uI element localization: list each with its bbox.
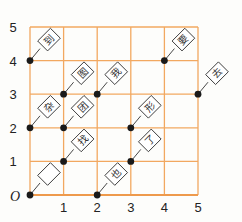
x-tick-label: 5 (194, 200, 201, 215)
grid-point (94, 91, 101, 98)
grid-point (27, 124, 34, 131)
flag-icon (38, 163, 61, 186)
flag-point: 我 (94, 62, 128, 98)
flag-icon: 团 (71, 95, 94, 118)
flag-point (27, 163, 61, 199)
x-tick-label: 1 (60, 200, 67, 215)
grid-point (27, 57, 34, 64)
y-tick-label: 5 (9, 20, 16, 35)
grid-point (127, 158, 134, 165)
grid-point (27, 192, 34, 199)
flag-icon: 到 (38, 28, 61, 51)
flag-point: 图 (60, 62, 94, 98)
flag-point: 了 (127, 129, 161, 165)
x-tick-label: 4 (161, 200, 168, 215)
y-tick-label: 3 (9, 87, 16, 102)
origin-label: O (10, 189, 20, 204)
grid-point (60, 124, 67, 131)
grid-point (60, 91, 67, 98)
grid-point (60, 158, 67, 165)
flag-point: 团 (60, 95, 94, 131)
grid-point (127, 124, 134, 131)
y-tick-label: 4 (9, 54, 16, 69)
grid-point (161, 57, 168, 64)
y-tick-label: 2 (9, 121, 16, 136)
grid-point (195, 91, 202, 98)
flag-point: 要 (161, 28, 195, 64)
flag-icon: 杂 (38, 95, 61, 118)
coordinate-grid-diagram: 1234512345O 到图我要去杂团形找了也 (0, 0, 242, 222)
flag-icon: 去 (206, 62, 229, 85)
flag-icon: 找 (71, 129, 94, 152)
flag-icon: 形 (138, 95, 161, 118)
flag-icon: 图 (71, 62, 94, 85)
flag-point: 去 (195, 62, 229, 98)
flag-point: 也 (94, 163, 128, 199)
flag-icon: 了 (138, 129, 161, 152)
flag-icon: 要 (172, 28, 195, 51)
flag-point: 到 (27, 28, 61, 64)
x-tick-label: 3 (127, 200, 134, 215)
flag-icon: 也 (105, 163, 128, 186)
flag-icon: 我 (105, 62, 128, 85)
flag-point: 杂 (27, 95, 61, 131)
y-tick-label: 1 (9, 154, 16, 169)
flag-point: 找 (60, 129, 94, 165)
x-tick-label: 2 (94, 200, 101, 215)
grid-point (94, 192, 101, 199)
flag-point: 形 (127, 95, 161, 131)
